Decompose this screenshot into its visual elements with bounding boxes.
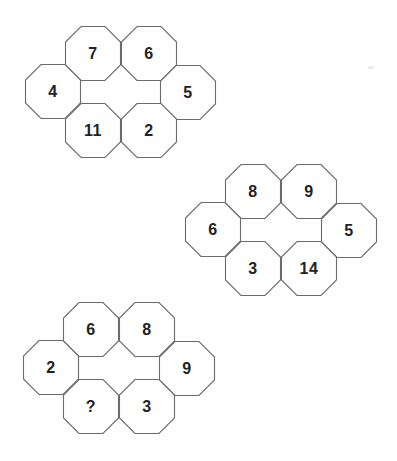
octagon-bottom-right: 2 [121,103,177,158]
octagon-number: 3 [225,241,281,296]
octagon-bottom-left: 3 [225,241,281,296]
octagon-number: 2 [121,103,177,158]
scan-smudge [368,66,374,69]
octagon-number: 11 [65,103,121,158]
octagon-number: 3 [119,379,175,434]
octagon-puzzle-canvas: 7 6 4 5 11 2 8 9 [0,0,397,461]
octagon-bottom-right: 14 [281,241,337,296]
octagon-number: 14 [281,241,337,296]
octagon-bottom-left: 11 [65,103,121,158]
question-mark: ? [63,379,119,434]
octagon-bottom-left-unknown: ? [63,379,119,434]
octagon-bottom-right: 3 [119,379,175,434]
